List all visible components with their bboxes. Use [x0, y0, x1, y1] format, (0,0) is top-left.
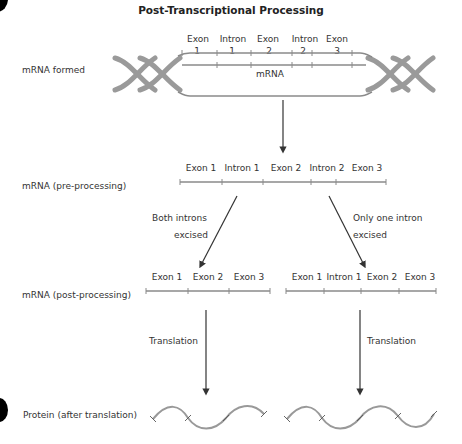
dna-strands [178, 53, 372, 96]
arrow-branch-left [201, 196, 237, 265]
dna-helix-right-icon [368, 58, 433, 90]
diagram-graphics [0, 0, 462, 444]
protein-chain-left-icon [153, 406, 264, 428]
arrow-branch-right [329, 196, 364, 265]
dna-helix-left-icon [115, 58, 180, 90]
